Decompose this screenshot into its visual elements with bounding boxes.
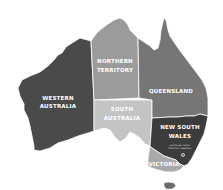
australia-map: WESTERN AUSTRALIA NORTHERN TERRITORY SOU… [0,0,223,190]
region-tasmania[interactable] [164,182,176,189]
label-south-australia: SOUTH [111,106,134,112]
label-victoria: VICTORIA [149,161,180,167]
label-northern-territory-2: TERRITORY [97,67,134,73]
label-western-australia-2: AUSTRALIA [40,103,77,109]
label-northern-territory: NORTHERN [97,58,133,64]
label-queensland: QUEENSLAND [149,88,193,94]
label-western-australia: WESTERN [42,95,74,101]
label-new-south-wales: NEW SOUTH [160,124,200,130]
label-south-australia-2: AUSTRALIA [104,115,141,121]
label-new-south-wales-2: WALES [169,133,191,139]
